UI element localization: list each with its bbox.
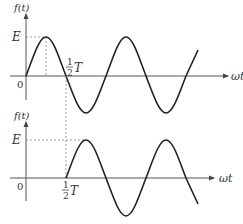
svg-text:2: 2 [63,191,69,201]
top-plot: f(t) ωt E 0 1 2 T [10,2,243,113]
top-x-axis-label: ωt [231,70,243,83]
top-sine-curve [26,37,198,113]
svg-text:T: T [70,184,79,198]
top-amplitude-label: E [11,30,21,44]
top-origin-label: 0 [17,79,23,90]
svg-text:T: T [74,61,83,75]
bottom-origin-label: 0 [17,181,23,192]
svg-text:1: 1 [63,180,69,190]
bottom-y-axis-label: f(t) [13,110,30,121]
svg-text:1: 1 [67,57,73,67]
bottom-x-axis-label: ωt [219,172,233,185]
bottom-plot: f(t) ωt E 0 1 2 T [10,110,233,216]
top-y-axis-label: f(t) [13,2,30,13]
bottom-amplitude-label: E [11,133,21,147]
svg-text:2: 2 [67,68,73,78]
top-half-period-label: 1 2 T [66,57,83,78]
bottom-half-period-label: 1 2 T [62,180,79,201]
diagram: f(t) ωt E 0 1 2 T f(t) ωt E 0 1 2 T [0,0,243,224]
